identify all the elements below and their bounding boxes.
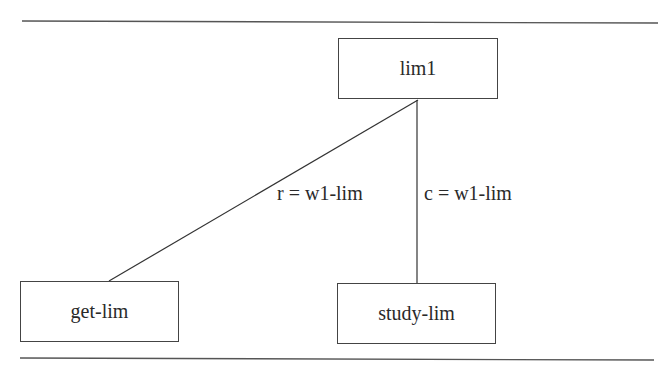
edge-lim1-get-lim <box>109 100 418 281</box>
node-get-lim: get-lim <box>20 281 179 342</box>
bottom-rule <box>20 358 654 360</box>
edge-label-c: c = w1-lim <box>424 182 512 205</box>
node-lim1: lim1 <box>338 38 498 99</box>
node-get-lim-label: get-lim <box>71 300 129 323</box>
node-study-lim-label: study-lim <box>378 302 455 325</box>
node-lim1-label: lim1 <box>400 57 437 80</box>
top-rule <box>22 21 658 23</box>
edge-label-r: r = w1-lim <box>277 182 363 205</box>
node-study-lim: study-lim <box>337 283 496 344</box>
